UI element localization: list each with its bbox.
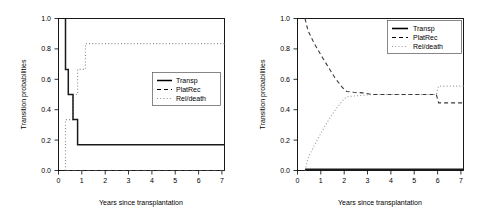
right-y-tick-labels: 0.0 0.2 0.4 0.6 0.8 1.0 (280, 15, 290, 174)
x-tick-label: 0 (296, 177, 300, 184)
x-tick-label: 6 (436, 177, 440, 184)
x-tick-label: 6 (197, 177, 201, 184)
y-tick-label: 0.8 (41, 45, 51, 52)
left-x-tick-labels: 0 1 2 3 4 5 6 7 (57, 177, 224, 184)
left-y-tick-labels: 0.0 0.2 0.4 0.6 0.8 1.0 (41, 15, 51, 174)
x-tick-label: 2 (103, 177, 107, 184)
y-tick-label: 0.0 (41, 167, 51, 174)
y-tick-label: 1.0 (280, 15, 290, 22)
left-y-axis-title: Transition probabilities (20, 59, 28, 129)
x-tick-label: 4 (389, 177, 393, 184)
x-tick-label: 3 (127, 177, 131, 184)
legend-label-rel-death: Rel/death (413, 43, 443, 50)
x-tick-label: 7 (459, 177, 463, 184)
y-tick-label: 0.4 (280, 106, 290, 113)
x-tick-label: 7 (220, 177, 224, 184)
y-tick-label: 0.6 (280, 76, 290, 83)
y-tick-label: 0.4 (41, 106, 51, 113)
x-tick-label: 5 (173, 177, 177, 184)
right-y-axis-ticks (294, 19, 298, 171)
right-y-axis-title: Transition probabilities (259, 59, 267, 129)
left-x-axis-ticks (59, 171, 222, 175)
legend-label-transp: Transp (413, 25, 435, 33)
right-x-axis-ticks (298, 171, 461, 175)
legend-label-transp: Transp (176, 77, 198, 85)
x-tick-label: 4 (150, 177, 154, 184)
series-line-rel-death (305, 86, 464, 170)
y-tick-label: 0.8 (280, 45, 290, 52)
y-tick-label: 0.2 (41, 137, 51, 144)
y-tick-label: 0.6 (41, 76, 51, 83)
right-x-tick-labels: 0 1 2 3 4 5 6 7 (296, 177, 463, 184)
legend-label-rel-death: Rel/death (176, 95, 206, 102)
left-y-axis-ticks (55, 19, 59, 171)
legend-label-platrec: PlatRec (176, 86, 201, 93)
left-legend: Transp PlatRec Rel/death (153, 73, 221, 106)
y-tick-label: 0.0 (280, 167, 290, 174)
series-line-rel-death (66, 44, 225, 171)
y-tick-label: 0.2 (280, 137, 290, 144)
x-tick-label: 5 (412, 177, 416, 184)
right-plot-panel: 0.0 0.2 0.4 0.6 0.8 1.0 0 1 2 (239, 0, 478, 219)
right-legend: Transp PlatRec Rel/death (388, 21, 462, 54)
left-x-axis-title: Years since transplantation (99, 199, 183, 207)
x-tick-label: 2 (342, 177, 346, 184)
x-tick-label: 1 (80, 177, 84, 184)
right-x-axis-title: Years since transplantation (338, 199, 422, 207)
x-tick-label: 1 (319, 177, 323, 184)
x-tick-label: 0 (57, 177, 61, 184)
right-plot-svg: 0.0 0.2 0.4 0.6 0.8 1.0 0 1 2 (239, 0, 478, 219)
left-plot-panel: 0.0 0.2 0.4 0.6 0.8 1.0 0 1 2 (0, 0, 239, 219)
y-tick-label: 1.0 (41, 15, 51, 22)
legend-label-platrec: PlatRec (413, 34, 438, 41)
left-plot-svg: 0.0 0.2 0.4 0.6 0.8 1.0 0 1 2 (0, 0, 239, 219)
transition-probability-figure: 0.0 0.2 0.4 0.6 0.8 1.0 0 1 2 (0, 0, 478, 219)
x-tick-label: 3 (366, 177, 370, 184)
